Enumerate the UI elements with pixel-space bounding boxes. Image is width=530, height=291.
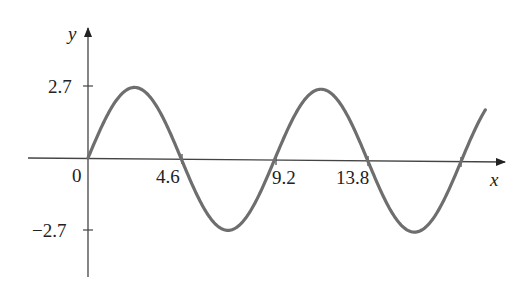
sine-chart: y x 0 4.6 9.2 13.8 2.7 −2.7 [0, 0, 530, 291]
x-axis-label: x [489, 169, 499, 190]
origin-label: 0 [72, 165, 82, 186]
x-axis [28, 158, 505, 162]
y-axis-label: y [66, 23, 77, 44]
x-tick-label: 13.8 [336, 167, 369, 188]
y-tick-label: −2.7 [32, 220, 66, 241]
y-tick-label: 2.7 [48, 76, 72, 97]
x-tick-label: 4.6 [156, 166, 180, 187]
x-tick-label: 9.2 [272, 167, 296, 188]
